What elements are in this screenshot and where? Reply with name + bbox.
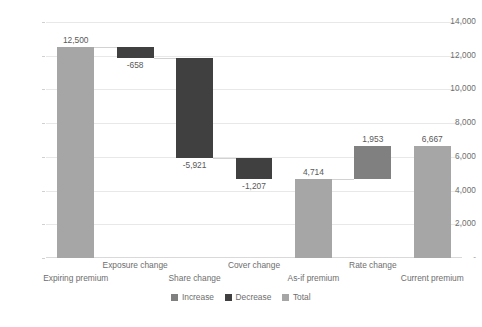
legend-swatch-icon xyxy=(171,294,178,301)
gridline xyxy=(46,123,462,124)
x-axis-label-rate-change: Rate change xyxy=(316,261,429,270)
waterfall-chart: 12,500-658-5,921-1,2074,7141,9536,667 Ex… xyxy=(0,0,482,327)
y-axis-tick-label: 2,000 xyxy=(432,220,476,228)
y-axis-tick-mark xyxy=(42,123,45,124)
gridline xyxy=(46,22,462,23)
x-axis-label-exposure-change: Exposure change xyxy=(79,261,192,270)
plot-area: 12,500-658-5,921-1,2074,7141,9536,667 xyxy=(46,22,462,258)
x-axis-category-labels: Expiring premiumExposure changeShare cha… xyxy=(46,258,462,288)
y-axis-tick-mark xyxy=(42,89,45,90)
bar-value-label: 12,500 xyxy=(46,36,105,44)
y-axis-tick-label: 12,000 xyxy=(432,52,476,60)
bar-decrease[interactable] xyxy=(117,47,154,58)
x-axis-label-as-if-premium: As-if premium xyxy=(257,274,370,283)
gridline xyxy=(46,191,462,192)
y-axis-tick-mark xyxy=(42,191,45,192)
waterfall-connector xyxy=(332,179,355,180)
legend-item-increase[interactable]: Increase xyxy=(171,293,214,301)
gridline xyxy=(46,89,462,90)
bar-decrease[interactable] xyxy=(236,158,273,178)
bar-value-label: -5,921 xyxy=(165,161,224,169)
legend-swatch-icon xyxy=(282,294,289,301)
gridline xyxy=(46,56,462,57)
legend-label: Decrease xyxy=(236,293,272,301)
y-axis-tick-mark xyxy=(42,22,45,23)
legend-swatch-icon xyxy=(225,294,232,301)
bar-value-label: 6,667 xyxy=(403,135,462,143)
bar-value-label: -1,207 xyxy=(224,182,283,190)
gridline xyxy=(46,224,462,225)
x-axis-label-expiring-premium: Expiring premium xyxy=(19,274,132,283)
bar-value-label: 4,714 xyxy=(284,168,343,176)
legend-item-decrease[interactable]: Decrease xyxy=(225,293,271,301)
y-axis-tick-label: 6,000 xyxy=(432,153,476,161)
x-axis-label-cover-change: Cover change xyxy=(198,261,311,270)
bar-total[interactable] xyxy=(414,146,451,258)
bar-decrease[interactable] xyxy=(176,58,213,158)
y-axis-tick-mark xyxy=(42,258,45,259)
y-axis-tick-label: - xyxy=(432,254,476,262)
bar-increase[interactable] xyxy=(354,146,391,179)
y-axis-tick-label: 4,000 xyxy=(432,187,476,195)
waterfall-connector xyxy=(154,58,177,59)
x-axis-label-current-premium: Current premium xyxy=(376,274,482,283)
bar-total[interactable] xyxy=(295,179,332,258)
x-axis-label-share-change: Share change xyxy=(138,274,251,283)
waterfall-connector xyxy=(94,47,117,48)
bar-value-label: -658 xyxy=(105,61,164,69)
y-axis-tick-mark xyxy=(42,224,45,225)
y-axis-tick-label: 14,000 xyxy=(432,18,476,26)
bar-value-label: 1,953 xyxy=(343,135,402,143)
legend-label: Total xyxy=(293,293,311,301)
legend-item-total[interactable]: Total xyxy=(282,293,310,301)
y-axis-tick-mark xyxy=(42,56,45,57)
y-axis-tick-label: 8,000 xyxy=(432,119,476,127)
legend-label: Increase xyxy=(182,293,214,301)
bar-total[interactable] xyxy=(57,47,94,258)
chart-legend: IncreaseDecreaseTotal xyxy=(0,293,482,301)
waterfall-connector xyxy=(213,158,236,159)
y-axis xyxy=(0,22,46,258)
y-axis-tick-label: 10,000 xyxy=(432,85,476,93)
y-axis-tick-mark xyxy=(42,157,45,158)
